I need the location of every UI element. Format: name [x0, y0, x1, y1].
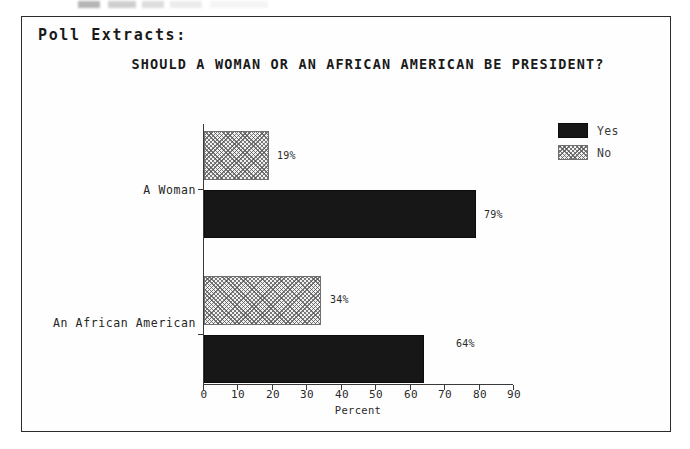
bar-value-a-woman-no: 19%	[277, 150, 296, 161]
x-tick-label-20: 20	[266, 388, 280, 401]
x-tick-label-80: 80	[473, 388, 487, 401]
x-tick-label-30: 30	[300, 388, 314, 401]
x-tick-label-0: 0	[200, 388, 207, 401]
x-tick-label-70: 70	[438, 388, 452, 401]
y-axis-category-a-woman: A Woman	[58, 183, 196, 197]
bar-a-woman-no[interactable]	[204, 131, 269, 180]
bar-an-african-american-yes[interactable]	[204, 335, 424, 383]
legend-label-yes: Yes	[597, 124, 619, 138]
x-tick-label-90: 90	[507, 388, 521, 401]
x-axis-line	[203, 384, 513, 385]
chart-legend: Yes No	[558, 121, 619, 165]
legend-label-no: No	[597, 146, 611, 160]
legend-item-no[interactable]: No	[558, 143, 619, 162]
x-tick-label-50: 50	[369, 388, 383, 401]
y-axis-category-an-african-american: An African American	[40, 316, 196, 330]
x-axis-title: Percent	[203, 404, 513, 416]
bar-value-an-african-american-yes: 64%	[456, 338, 475, 349]
y-tick-a-woman	[198, 189, 204, 190]
bar-chart: 19% 79% A Woman 34% 64% An African Ameri…	[0, 0, 690, 449]
legend-swatch-yes-icon	[558, 123, 588, 138]
legend-swatch-no-icon	[558, 145, 588, 160]
x-tick-label-40: 40	[335, 388, 349, 401]
bar-an-african-american-no[interactable]	[204, 276, 321, 325]
y-tick-an-african-american	[198, 334, 204, 335]
bar-value-an-african-american-no: 34%	[330, 294, 349, 305]
x-tick-label-10: 10	[231, 388, 245, 401]
bar-a-woman-yes[interactable]	[204, 190, 476, 238]
bar-value-a-woman-yes: 79%	[484, 209, 503, 220]
x-tick-label-60: 60	[404, 388, 418, 401]
legend-item-yes[interactable]: Yes	[558, 121, 619, 140]
